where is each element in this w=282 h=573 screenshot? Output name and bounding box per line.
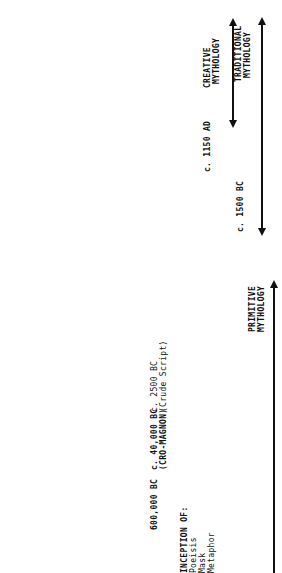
traditional-arrow-down-icon	[258, 228, 266, 236]
traditional-label: TRADITIONAL MYTHOLOGY	[234, 26, 252, 82]
traditional-date: c. 1500 BC	[236, 181, 245, 232]
inception-item: Mask	[198, 506, 207, 573]
creative-label: CREATIVE MYTHOLOGY	[203, 38, 221, 88]
primitive-span-line	[273, 286, 275, 573]
inception-item: Poeisis	[189, 506, 198, 573]
inception-item: Metaphor	[207, 506, 216, 573]
creative-arrow-down-icon	[229, 120, 237, 128]
primitive-label: PRIMITIVE MYTHOLOGY	[248, 286, 266, 332]
milestone-600000bc: 600,000 BC	[150, 479, 159, 530]
milestone-2500bc: c. 2500 BC (Crude Script)	[150, 340, 168, 412]
inception-title: INCEPTION OF:	[180, 506, 189, 573]
traditional-span-line	[261, 23, 263, 229]
milestone-40000bc: c. 40,000 BC (CRO-MAGNON)	[150, 409, 168, 470]
creative-date: c. 1150 AD	[203, 121, 212, 172]
inception-block: INCEPTION OF: Poeisis Mask Metaphor	[180, 506, 216, 573]
